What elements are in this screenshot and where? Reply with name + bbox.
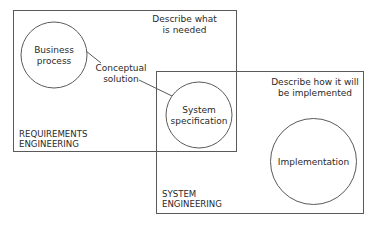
requirements-engineering-title: REQUIREMENTS ENGINEERING — [19, 129, 87, 149]
system-note-line2: be implemented — [278, 88, 352, 98]
system-title-line1: SYSTEM — [162, 189, 196, 199]
requirements-note-line2: is needed — [163, 25, 207, 35]
business-process-circle — [21, 22, 87, 88]
system-note-line1: Describe how it will — [271, 77, 359, 87]
conceptual-solution-line2: solution — [103, 74, 139, 84]
connector-solution-to-specification — [139, 80, 172, 96]
requirements-title-line2: ENGINEERING — [19, 139, 79, 149]
system-specification-circle — [166, 82, 232, 148]
system-title-line2: ENGINEERING — [162, 199, 222, 209]
node-implementation: Implementation — [271, 119, 357, 205]
conceptual-solution-label: Conceptual solution — [96, 63, 147, 84]
system-note: Describe how it will be implemented — [271, 77, 359, 98]
business-process-label-line1: Business — [34, 45, 74, 55]
node-system-specification: System specification — [166, 82, 232, 148]
node-business-process: Business process — [21, 22, 87, 88]
system-specification-label-line2: specification — [171, 116, 228, 126]
system-engineering-title: SYSTEM ENGINEERING — [162, 189, 222, 209]
implementation-label: Implementation — [278, 157, 349, 167]
requirements-title-line1: REQUIREMENTS — [19, 129, 87, 139]
conceptual-solution-line1: Conceptual — [96, 63, 147, 73]
business-process-label-line2: process — [37, 56, 72, 66]
engineering-diagram: Business process System specification Im… — [0, 0, 375, 225]
connector-business-to-solution — [86, 51, 101, 63]
requirements-note-line1: Describe what — [152, 14, 217, 24]
requirements-note: Describe what is needed — [152, 14, 217, 35]
system-specification-label-line1: System — [182, 105, 216, 115]
